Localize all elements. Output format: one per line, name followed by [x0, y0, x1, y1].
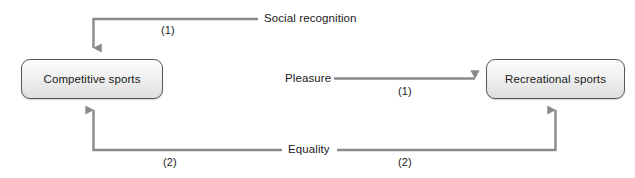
edge-line-equality-left — [94, 110, 283, 150]
diagram-canvas: Competitive sports Recreational sports S… — [0, 0, 635, 178]
edge-order-social-recognition: (1) — [161, 24, 175, 36]
edge-label-equality: Equality — [288, 143, 330, 155]
node-competitive-sports-label: Competitive sports — [43, 73, 140, 85]
edge-order-equality-left: (2) — [163, 156, 177, 168]
edge-line-social-recognition — [94, 19, 259, 48]
node-recreational-sports[interactable]: Recreational sports — [486, 59, 625, 99]
edge-equality-right — [337, 110, 556, 150]
edge-label-pleasure: Pleasure — [285, 72, 331, 84]
edge-order-equality-right: (2) — [398, 156, 412, 168]
edge-social-recognition — [94, 19, 259, 48]
edge-label-social-recognition: Social recognition — [264, 12, 357, 24]
node-competitive-sports[interactable]: Competitive sports — [21, 59, 163, 99]
edge-order-pleasure: (1) — [398, 85, 412, 97]
edge-line-equality-right — [337, 110, 556, 150]
edge-equality-left — [94, 110, 283, 150]
node-recreational-sports-label: Recreational sports — [505, 73, 606, 85]
